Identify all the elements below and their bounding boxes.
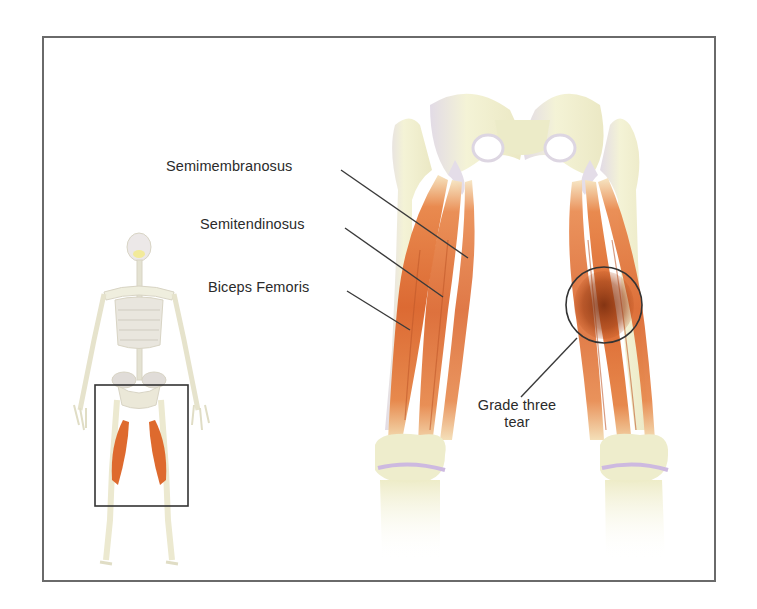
label-semitendinosus: Semitendinosus [200, 216, 305, 232]
anatomy-illustration [0, 0, 757, 609]
label-biceps-femoris: Biceps Femoris [208, 279, 309, 295]
knee-joints [375, 434, 668, 560]
small-hamstrings [112, 420, 167, 485]
pelvis-bone [430, 94, 604, 195]
tear-leader-line [521, 338, 577, 397]
label-tear-line2: tear [462, 414, 572, 431]
label-semimembranosus: Semimembranosus [166, 158, 292, 174]
label-grade-three-tear: Grade three tear [462, 397, 572, 431]
tear-region [574, 271, 634, 339]
label-tear-line1: Grade three [462, 397, 572, 414]
